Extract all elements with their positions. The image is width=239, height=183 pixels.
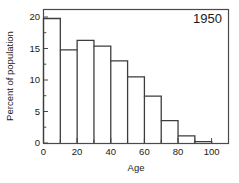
x-tick-label-100: 100 xyxy=(204,146,220,157)
y-tick-label-15: 15 xyxy=(29,43,40,54)
y-tick-label-10: 10 xyxy=(29,74,40,85)
chart-title: 1950 xyxy=(193,11,222,26)
x-tick-label-60: 60 xyxy=(139,146,150,157)
y-tick-label-20: 20 xyxy=(29,11,40,22)
y-axis-ticks xyxy=(44,17,49,143)
x-axis-title: Age xyxy=(128,162,145,173)
histogram-bars xyxy=(44,18,212,143)
x-tick-label-80: 80 xyxy=(173,146,184,157)
x-tick-labels: 0 20 40 60 80 100 xyxy=(41,146,220,157)
y-tick-label-0: 0 xyxy=(35,137,40,148)
y-axis-title: Percent of population xyxy=(4,31,15,121)
population-age-histogram: 0 5 10 15 20 0 20 40 60 80 100 xyxy=(0,0,239,183)
y-tick-labels: 0 5 10 15 20 xyxy=(29,11,40,148)
x-tick-label-20: 20 xyxy=(72,146,83,157)
x-tick-label-0: 0 xyxy=(41,146,46,157)
x-tick-label-40: 40 xyxy=(106,146,117,157)
y-tick-label-5: 5 xyxy=(35,106,40,117)
histogram-figure: 0 5 10 15 20 0 20 40 60 80 100 xyxy=(0,0,239,183)
